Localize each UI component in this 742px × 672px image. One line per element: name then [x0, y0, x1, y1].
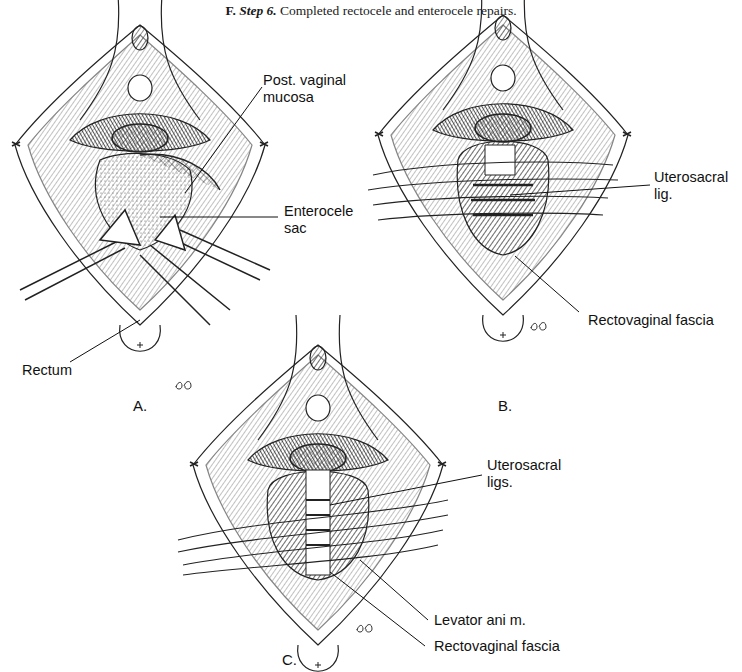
panel-b-drawing [368, 0, 631, 341]
label-rectum: Rectum [22, 362, 72, 379]
panel-letter-a: A. [133, 397, 147, 414]
label-post-vaginal-mucosa: Post. vaginal mucosa [263, 72, 346, 106]
label-rectovaginal-fascia-c: Rectovaginal fascia [434, 638, 560, 655]
label-uterosacral-lig: Uterosacral lig. [654, 169, 728, 203]
label-rectovaginal-fascia-b: Rectovaginal fascia [588, 312, 714, 329]
surgical-illustration [0, 0, 742, 672]
panel-letter-b: B. [498, 397, 512, 414]
label-enterocele-sac: Enterocele sac [284, 203, 353, 237]
panel-letter-c: C. [282, 651, 297, 668]
panel-a-drawing [12, 0, 270, 351]
label-levator-ani: Levator ani m. [434, 612, 526, 629]
label-uterosacral-ligs: Uterosacral ligs. [487, 457, 561, 491]
panel-c-drawing [178, 315, 448, 671]
